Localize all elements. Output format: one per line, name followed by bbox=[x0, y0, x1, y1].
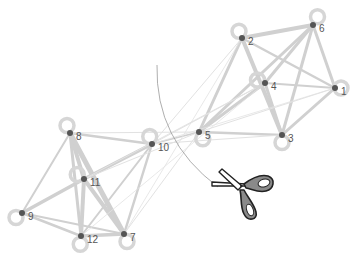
scissors-icon bbox=[212, 169, 273, 219]
node-dot bbox=[81, 176, 87, 182]
node-label: 3 bbox=[288, 133, 294, 144]
edge-6-5 bbox=[199, 25, 313, 132]
edge-8-10 bbox=[70, 133, 152, 144]
nodes-layer: 123456789101112 bbox=[19, 22, 347, 245]
edge-12-4 bbox=[81, 83, 265, 236]
self-loop-12 bbox=[73, 237, 87, 251]
node-dot bbox=[332, 85, 338, 91]
node-dot bbox=[262, 80, 268, 86]
node-dot bbox=[310, 22, 316, 28]
self-loop-8 bbox=[60, 119, 74, 133]
self-loop-6 bbox=[311, 10, 325, 24]
self-loop-10 bbox=[143, 130, 157, 144]
node-label: 2 bbox=[248, 36, 254, 47]
node-dot bbox=[67, 130, 73, 136]
node-label: 4 bbox=[271, 81, 277, 92]
node-label: 10 bbox=[158, 142, 170, 153]
node-label: 1 bbox=[341, 86, 347, 97]
node-label: 6 bbox=[319, 23, 325, 34]
node-dot bbox=[239, 35, 245, 41]
node-dot bbox=[149, 141, 155, 147]
edge-5-3 bbox=[199, 132, 282, 135]
node-label: 7 bbox=[130, 232, 136, 243]
node-dot bbox=[19, 210, 25, 216]
node-label: 11 bbox=[90, 177, 101, 188]
node-label: 5 bbox=[205, 130, 211, 141]
graph-canvas: 123456789101112 bbox=[0, 0, 359, 261]
node-dot bbox=[121, 231, 127, 237]
edge-8-5 bbox=[70, 132, 199, 133]
node-label: 8 bbox=[76, 131, 82, 142]
edge-11-12 bbox=[81, 179, 84, 236]
node-label: 9 bbox=[28, 211, 34, 222]
edge-10-1 bbox=[152, 88, 335, 144]
graph-diagram: 123456789101112 bbox=[0, 0, 359, 261]
node-label: 12 bbox=[87, 234, 99, 245]
node-dot bbox=[78, 233, 84, 239]
node-dot bbox=[279, 132, 285, 138]
node-dot bbox=[196, 129, 202, 135]
edge-10-2 bbox=[152, 38, 242, 144]
